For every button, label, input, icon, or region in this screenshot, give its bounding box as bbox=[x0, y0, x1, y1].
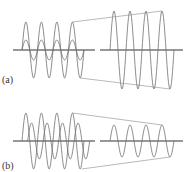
panel-b-label: (b) bbox=[2, 160, 14, 171]
hidden bbox=[72, 12, 116, 22]
guide-line-top bbox=[72, 113, 162, 125]
panel-a-label: (a) bbox=[2, 74, 13, 85]
guide-line-bottom bbox=[80, 78, 170, 89]
guide-line-bottom bbox=[82, 157, 170, 169]
interference-diagram bbox=[0, 0, 194, 172]
guide-line-top bbox=[72, 11, 162, 22]
